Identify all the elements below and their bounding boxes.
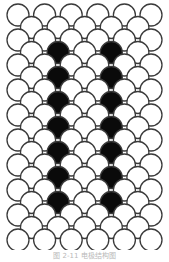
empty-circle — [60, 229, 82, 250]
circle-array-diagram — [0, 0, 169, 250]
empty-circle — [113, 229, 135, 250]
empty-circle — [87, 229, 109, 250]
empty-circle — [140, 229, 162, 250]
empty-circle — [34, 229, 56, 250]
figure-caption: 图 2-11 电极结构图 — [0, 250, 169, 260]
empty-circle — [7, 229, 29, 250]
